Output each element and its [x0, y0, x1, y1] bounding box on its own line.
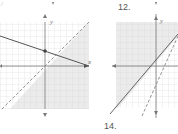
graph1-x-label: x	[87, 58, 92, 66]
graphs-figure: / y x y	[0, 0, 178, 134]
graph-2	[110, 14, 178, 118]
graph-1	[0, 14, 89, 118]
svg-text:/: /	[0, 1, 4, 7]
